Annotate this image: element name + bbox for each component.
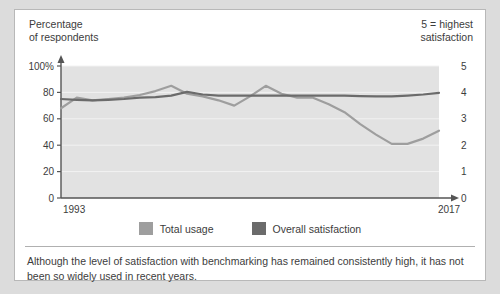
- y-tick-label-left: 100%: [28, 61, 54, 72]
- y-tick-label-left: 0: [48, 193, 54, 204]
- y-tick-label-right: 5: [461, 61, 467, 72]
- figure-card: Percentage of respondents 5 = highest sa…: [14, 9, 486, 281]
- y-tick-label-left: 40: [43, 140, 55, 151]
- legend-item-total-usage[interactable]: Total usage: [139, 222, 214, 235]
- x-axis-arrow-icon: [451, 195, 459, 202]
- figure-caption: Although the level of satisfaction with …: [27, 254, 473, 283]
- y-axis-title-left: Percentage of respondents: [29, 18, 98, 44]
- caption-divider: [25, 246, 475, 247]
- y-tick-label-right: 1: [461, 166, 467, 177]
- y-tick-label-left: 20: [43, 166, 55, 177]
- y-tick-label-right: 0: [461, 193, 467, 204]
- line-chart-svg: 020406080100%01234519932017: [25, 52, 477, 220]
- y-tick-label-right: 3: [461, 113, 467, 124]
- y-tick-label-left: 80: [43, 87, 55, 98]
- plot-background: [61, 66, 439, 198]
- y-axis-title-right: 5 = highest satisfaction: [420, 18, 473, 44]
- y-tick-label-right: 2: [461, 140, 467, 151]
- x-axis-tick-label: 1993: [63, 204, 86, 215]
- legend-swatch-overall-satisfaction: [252, 222, 266, 235]
- chart-legend: Total usage Overall satisfaction: [15, 222, 485, 235]
- y-tick-label-right: 4: [461, 87, 467, 98]
- y-tick-label-left: 60: [43, 113, 55, 124]
- legend-label-overall-satisfaction: Overall satisfaction: [273, 223, 362, 235]
- legend-label-total-usage: Total usage: [160, 223, 214, 235]
- legend-item-overall-satisfaction[interactable]: Overall satisfaction: [252, 222, 362, 235]
- screenshot-root: Percentage of respondents 5 = highest sa…: [0, 0, 500, 294]
- y-axis-arrow-icon: [58, 55, 65, 63]
- legend-swatch-total-usage: [139, 222, 153, 235]
- chart-plot-area: 020406080100%01234519932017: [25, 52, 477, 220]
- x-axis-tick-label: 2017: [438, 204, 461, 215]
